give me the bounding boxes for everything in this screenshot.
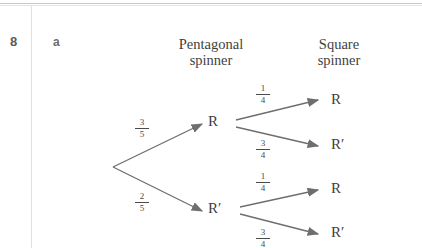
probability-stage1-upper-numerator: 3 [135,118,149,127]
probability-stage1-lower-numerator: 2 [135,192,149,201]
probability-stage1-lower: 2 5 [135,192,149,213]
probability-stage2-lower-rprime-numerator: 3 [256,228,270,237]
probability-stage1-upper: 3 5 [135,118,149,139]
probability-stage1-lower-denominator: 5 [135,204,149,213]
node-stage1-upper: R [208,113,218,130]
branch-stage2-lower-r [240,190,318,207]
probability-stage2-upper-r: 1 4 [256,84,270,105]
probability-stage2-lower-r-denominator: 4 [256,184,270,193]
probability-stage1-upper-denominator: 5 [135,130,149,139]
probability-stage2-lower-rprime: 3 4 [256,228,270,248]
probability-stage2-upper-rprime-denominator: 4 [256,151,270,160]
node-outcome-3: R [331,180,341,197]
node-stage1-lower: R′ [208,200,221,217]
branch-stage2-lower-rprime [240,214,318,234]
probability-stage2-upper-rprime: 3 4 [256,139,270,160]
probability-stage2-lower-r: 1 4 [256,172,270,193]
branch-stage2-upper-rprime [236,127,318,146]
node-outcome-1: R [331,91,341,108]
probability-stage2-upper-rprime-numerator: 3 [256,139,270,148]
branch-stage1-lower [113,167,202,211]
probability-stage2-lower-r-numerator: 1 [256,172,270,181]
branch-stage1-upper [113,124,202,167]
branch-stage2-upper-r [236,100,318,120]
probability-stage2-upper-r-denominator: 4 [256,96,270,105]
probability-stage2-upper-r-numerator: 1 [256,84,270,93]
node-outcome-2: R′ [331,136,344,153]
probability-stage2-lower-rprime-denominator: 4 [256,240,270,248]
worksheet-page: 8 a Pentagonal spinner Square spinner R … [0,0,422,248]
node-outcome-4: R′ [331,224,344,241]
